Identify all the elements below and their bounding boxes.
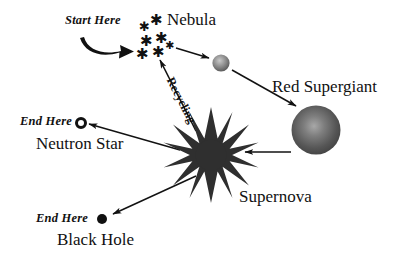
supernova-label: Supernova xyxy=(239,188,312,205)
main-sequence-star-sphere xyxy=(212,54,229,71)
edge-supernova-to-black-hole xyxy=(113,176,196,214)
black-hole-label: Black Hole xyxy=(57,231,134,248)
end-here-blackhole-label: End Here xyxy=(36,212,88,225)
nebula-star-icon: ✱ xyxy=(150,13,163,28)
red-supergiant-label: Red Supergiant xyxy=(272,78,377,95)
neutron-star-ring-icon xyxy=(75,117,87,129)
start-here-label: Start Here xyxy=(65,14,121,27)
nebula-star-icon: ✱ xyxy=(152,45,165,60)
edge-nebula-to-star xyxy=(176,48,209,58)
end-here-neutron-label: End Here xyxy=(20,115,72,128)
red-supergiant-sphere xyxy=(292,106,341,155)
black-hole-dot-icon xyxy=(97,214,107,224)
nebula-star-icon: ✱ xyxy=(136,47,149,62)
start-arrow-icon xyxy=(80,37,134,59)
nebula-label: Nebula xyxy=(167,11,216,28)
nebula-star-icon: ✱ xyxy=(165,40,174,51)
diagram-canvas: ✱ ✱ ✱ ✱ ✱ ✱ ✱ Start Here Nebula Red Supe… xyxy=(0,0,398,259)
neutron-star-label: Neutron Star xyxy=(36,135,123,152)
